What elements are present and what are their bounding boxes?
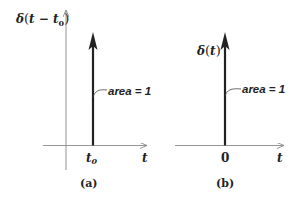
panel-b: δ(t) area = 1 0 t (b) — [175, 32, 285, 190]
area-label-b: area = 1 — [242, 83, 285, 95]
impulse-location-label-a: t0 — [86, 151, 98, 166]
y-axis-label-b: δ(t) — [196, 43, 221, 58]
x-axis-label-a: t — [142, 151, 148, 165]
impulse-location-label-b: 0 — [221, 151, 229, 165]
panel-a: δ(t − t0) area = 1 t0 t (a) — [15, 10, 151, 190]
y-axis-label-a: δ(t − t0) — [15, 11, 69, 28]
area-leader-b — [225, 89, 241, 96]
area-label-a: area = 1 — [108, 85, 151, 97]
impulse-diagram: δ(t − t0) area = 1 t0 t (a) δ(t) area = … — [0, 0, 298, 201]
x-axis-label-b: t — [277, 151, 283, 165]
caption-b: (b) — [216, 177, 234, 190]
caption-a: (a) — [80, 177, 98, 190]
area-leader-a — [93, 90, 107, 97]
